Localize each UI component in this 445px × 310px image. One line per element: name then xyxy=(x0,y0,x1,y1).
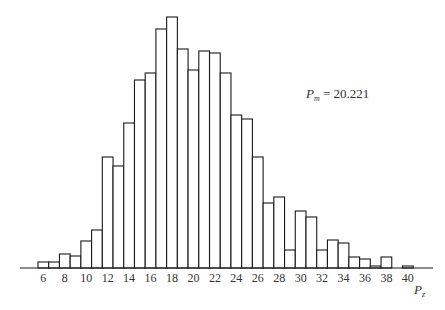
histogram-bar xyxy=(210,53,221,268)
x-tick-label: 10 xyxy=(80,271,92,285)
histogram-bar xyxy=(327,240,338,268)
histogram-bar xyxy=(59,254,70,268)
annotation-symbol: P xyxy=(306,86,314,101)
histogram-bar xyxy=(177,49,188,268)
histogram-bar xyxy=(252,157,263,268)
histogram-bar xyxy=(38,262,49,268)
histogram-bar xyxy=(188,70,199,268)
x-tick-label: 32 xyxy=(316,271,328,285)
x-tick-label: 24 xyxy=(230,271,242,285)
histogram-bar xyxy=(92,230,103,268)
x-tick-label: 14 xyxy=(123,271,135,285)
histogram-bar xyxy=(220,73,231,268)
histogram-bar xyxy=(134,80,145,268)
histogram-bar xyxy=(360,259,371,268)
histogram-bar xyxy=(306,217,317,268)
x-tick-label: 22 xyxy=(209,271,221,285)
x-tick-label: 40 xyxy=(402,271,414,285)
x-tick-label: 30 xyxy=(295,271,307,285)
x-tick-label: 18 xyxy=(166,271,178,285)
histogram-bar xyxy=(124,123,135,268)
histogram-bar xyxy=(81,241,92,268)
x-tick-label: 38 xyxy=(380,271,392,285)
x-tick-label: 20 xyxy=(187,271,199,285)
histogram-chart: 6810121416182022242628303234363840 Pz xyxy=(0,0,445,310)
x-tick-label: 16 xyxy=(145,271,157,285)
histogram-bars xyxy=(38,17,413,268)
mean-annotation: Pm = 20.221 xyxy=(306,86,369,103)
histogram-bar xyxy=(113,166,124,268)
histogram-bar xyxy=(167,17,178,268)
histogram-bar xyxy=(263,203,274,268)
x-tick-label: 34 xyxy=(338,271,350,285)
histogram-bar xyxy=(145,73,156,268)
histogram-bar xyxy=(49,262,60,268)
x-axis-label: Pz xyxy=(413,282,426,299)
histogram-bar xyxy=(70,256,81,268)
histogram-bar xyxy=(381,257,392,268)
x-tick-label: 26 xyxy=(252,271,264,285)
x-tick-labels: 6810121416182022242628303234363840 xyxy=(40,271,413,285)
x-tick-label: 6 xyxy=(40,271,46,285)
x-tick-label: 28 xyxy=(273,271,285,285)
histogram-bar xyxy=(338,243,349,268)
x-tick-label: 8 xyxy=(62,271,68,285)
annotation-value: = 20.221 xyxy=(320,86,370,101)
histogram-bar xyxy=(295,211,306,268)
histogram-bar xyxy=(156,29,167,268)
histogram-bar xyxy=(199,51,210,268)
histogram-bar xyxy=(102,157,113,268)
histogram-bar xyxy=(317,250,328,268)
histogram-bar xyxy=(349,257,360,268)
x-tick-label: 12 xyxy=(102,271,114,285)
histogram-bar xyxy=(242,119,253,268)
x-tick-label: 36 xyxy=(359,271,371,285)
histogram-bar xyxy=(231,115,242,268)
histogram-bar xyxy=(285,250,296,268)
histogram-bar xyxy=(274,197,285,268)
